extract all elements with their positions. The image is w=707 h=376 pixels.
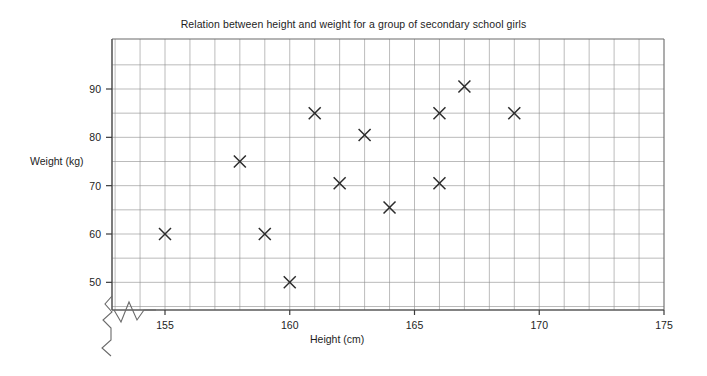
vertical-gridlines: [115, 39, 639, 310]
tick-label-y: 60: [89, 228, 101, 240]
scatter-plot: 155160165170175 5060708090: [0, 0, 707, 376]
horizontal-gridlines: [112, 65, 664, 307]
tick-label-x: 165: [406, 319, 424, 331]
x-tick-labels: 155160165170175: [156, 319, 673, 331]
tick-label-y: 50: [89, 276, 101, 288]
y-tick-labels: 5060708090: [89, 83, 101, 288]
tick-label-x: 175: [655, 319, 673, 331]
plot-frame: [112, 39, 664, 310]
tick-label-x: 170: [530, 319, 548, 331]
tick-label-y: 70: [89, 180, 101, 192]
y-axis-break-icon: [102, 296, 112, 356]
tick-label-x: 160: [281, 319, 299, 331]
axis-break-symbols: [102, 296, 156, 356]
tick-label-y: 80: [89, 131, 101, 143]
chart-page: Relation between height and weight for a…: [0, 0, 707, 376]
tick-label-x: 155: [156, 319, 174, 331]
tick-label-y: 90: [89, 83, 101, 95]
x-axis-break-icon: [114, 302, 156, 322]
